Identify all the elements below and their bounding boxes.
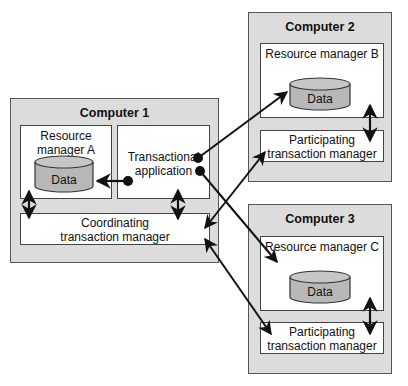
data-b-label: Data xyxy=(290,92,350,106)
ctm-to-ptm-c-arrow xyxy=(205,239,271,334)
data-c-label: Data xyxy=(290,285,350,299)
ctm-to-ptm-b-arrow xyxy=(205,152,265,228)
app-connector-dot xyxy=(123,176,133,186)
app-to-data-b-arrow xyxy=(198,92,287,158)
data-a-label: Data xyxy=(35,173,93,187)
diagram-connectors xyxy=(0,0,408,386)
